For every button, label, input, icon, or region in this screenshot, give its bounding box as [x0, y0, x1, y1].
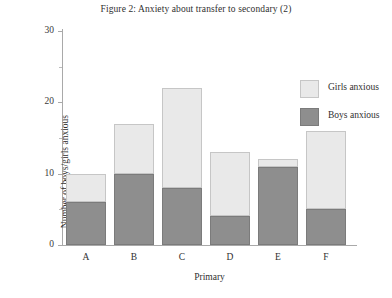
figure-title: Figure 2: Anxiety about transfer to seco…: [0, 4, 392, 14]
plot-area: Number of boys/girls anxious 0 10 20 30: [62, 31, 355, 245]
y-tick-0: 0: [58, 245, 62, 246]
bar-segment-boys-B[interactable]: [114, 174, 154, 245]
x-axis-label: Primary: [62, 272, 357, 282]
bar-group-B[interactable]: [114, 124, 154, 245]
bars-layer: [62, 31, 355, 245]
bar-group-D[interactable]: [210, 152, 250, 245]
bar-segment-girls-F[interactable]: [306, 131, 346, 209]
x-tick-label-A: A: [66, 252, 106, 262]
y-tick-label-20: 20: [45, 96, 55, 106]
legend-swatch-boys-icon: [300, 108, 319, 126]
x-tick-label-C: C: [162, 252, 202, 262]
legend-label-girls: Girls anxious: [328, 82, 379, 92]
y-tick-label-10: 10: [45, 168, 55, 178]
bar-group-A[interactable]: [66, 174, 106, 245]
bar-group-F[interactable]: [306, 131, 346, 245]
bar-segment-boys-E[interactable]: [258, 167, 298, 245]
bar-segment-girls-E[interactable]: [258, 159, 298, 166]
figure-container: Figure 2: Anxiety about transfer to seco…: [0, 0, 392, 298]
x-tick-label-D: D: [210, 252, 250, 262]
y-tick-label-0: 0: [49, 239, 54, 249]
bar-segment-girls-C[interactable]: [162, 88, 202, 188]
bar-segment-boys-F[interactable]: [306, 209, 346, 245]
bar-segment-girls-A[interactable]: [66, 174, 106, 203]
bar-group-E[interactable]: [258, 159, 298, 245]
bar-segment-boys-D[interactable]: [210, 216, 250, 245]
legend-swatch-girls-icon: [300, 80, 319, 98]
legend-label-boys: Boys anxious: [328, 110, 379, 120]
x-tick-label-E: E: [258, 252, 298, 262]
bar-segment-girls-B[interactable]: [114, 124, 154, 174]
bar-group-C[interactable]: [162, 88, 202, 245]
bar-segment-boys-C[interactable]: [162, 188, 202, 245]
y-tick-label-30: 30: [45, 25, 55, 35]
x-tick-label-F: F: [306, 252, 346, 262]
x-tick-label-B: B: [114, 252, 154, 262]
x-axis-line: [62, 245, 357, 246]
bar-segment-boys-A[interactable]: [66, 202, 106, 245]
bar-segment-girls-D[interactable]: [210, 152, 250, 216]
